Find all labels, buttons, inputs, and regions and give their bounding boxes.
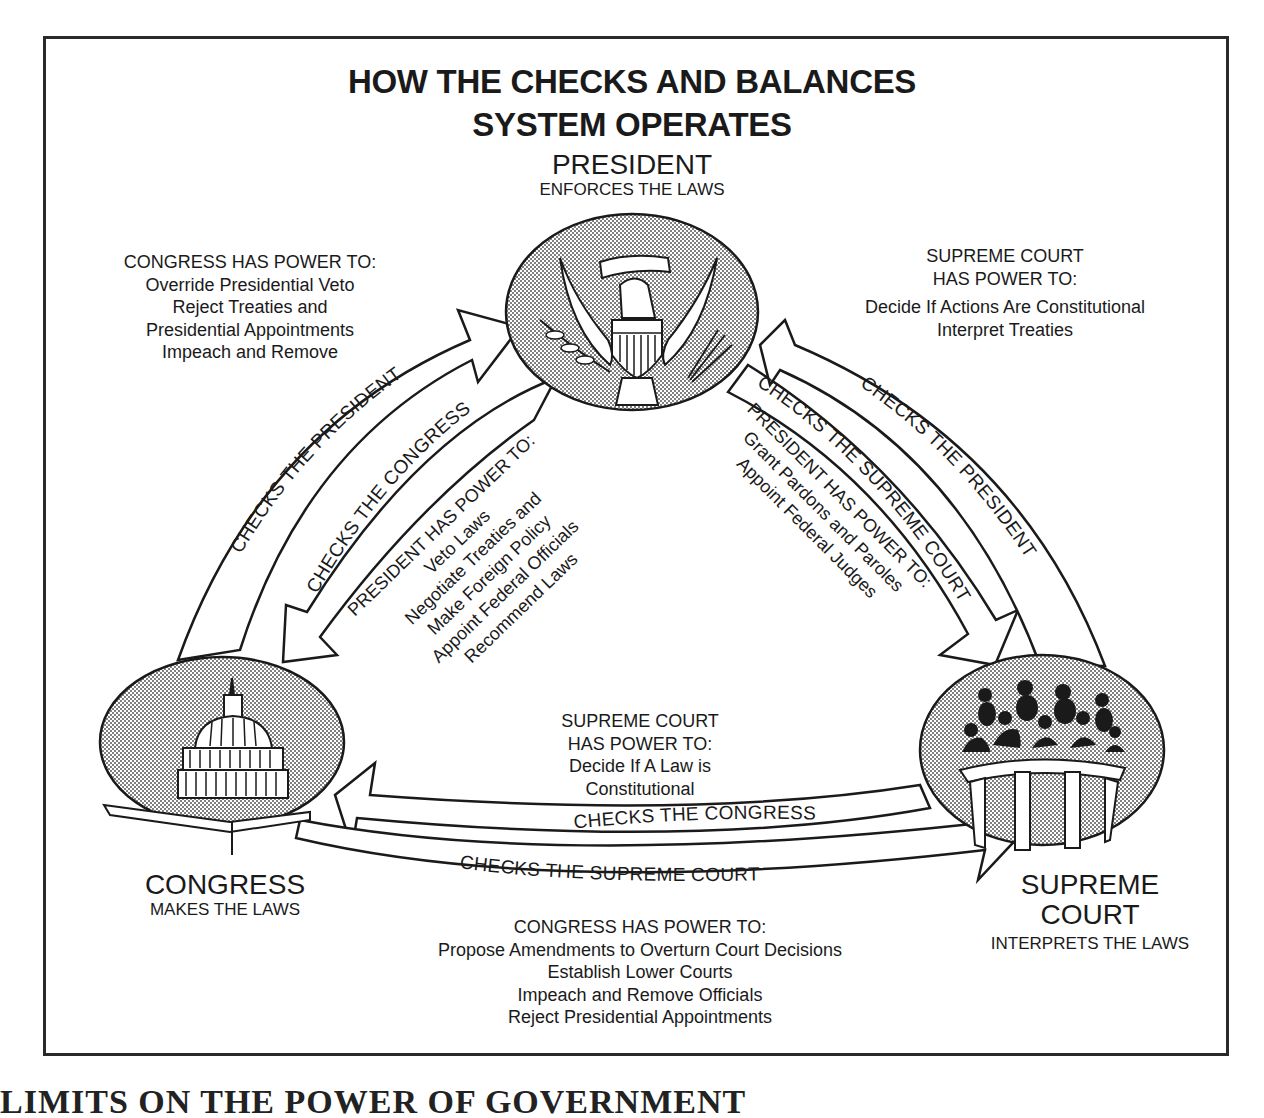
president-label: PRESIDENT ENFORCES THE LAWS <box>432 150 832 200</box>
supreme-court-label: SUPREME COURT INTERPRETS THE LAWS <box>950 870 1230 954</box>
next-section-heading-cut: LIMITS ON THE POWER OF GOVERNMENT <box>0 1083 746 1118</box>
diagram-title: HOW THE CHECKS AND BALANCES SYSTEM OPERA… <box>0 60 1264 146</box>
congress-label: CONGRESS MAKES THE LAWS <box>100 870 350 920</box>
power-item: Decide If Actions Are Constitutional <box>830 296 1180 319</box>
supreme-court-justices-icon <box>920 655 1164 850</box>
power-item: Interpret Treaties <box>830 319 1180 342</box>
power-item: Constitutional <box>500 778 780 801</box>
supreme-court-role: INTERPRETS THE LAWS <box>950 934 1230 954</box>
power-item: Establish Lower Courts <box>380 961 900 984</box>
power-heading: HAS POWER TO: <box>830 268 1180 291</box>
supreme-court-name-line-2: COURT <box>950 900 1230 930</box>
power-item: Override Presidential Veto <box>90 274 410 297</box>
title-line-2: SYSTEM OPERATES <box>0 103 1264 146</box>
president-seal-icon <box>506 214 758 410</box>
power-item: Propose Amendments to Overturn Court Dec… <box>380 939 900 962</box>
power-heading: SUPREME COURT <box>500 710 780 733</box>
title-line-1: HOW THE CHECKS AND BALANCES <box>0 60 1264 103</box>
court-powers-over-congress: SUPREME COURT HAS POWER TO: Decide If A … <box>500 710 780 800</box>
congress-powers-over-president: CONGRESS HAS POWER TO: Override Presiden… <box>90 251 410 364</box>
power-heading: CONGRESS HAS POWER TO: <box>380 916 900 939</box>
president-role: ENFORCES THE LAWS <box>432 180 832 200</box>
supreme-court-name-line-1: SUPREME <box>950 870 1230 900</box>
congress-role: MAKES THE LAWS <box>100 900 350 920</box>
power-heading: CONGRESS HAS POWER TO: <box>90 251 410 274</box>
power-heading: HAS POWER TO: <box>500 733 780 756</box>
power-item: Presidential Appointments <box>90 319 410 342</box>
power-item: Impeach and Remove Officials <box>380 984 900 1007</box>
power-item: Reject Treaties and <box>90 296 410 319</box>
power-item: Decide If A Law is <box>500 755 780 778</box>
court-powers-over-president: SUPREME COURT HAS POWER TO: Decide If Ac… <box>830 245 1180 341</box>
power-item: Reject Presidential Appointments <box>380 1006 900 1029</box>
power-heading: SUPREME COURT <box>830 245 1180 268</box>
president-name: PRESIDENT <box>432 150 832 180</box>
congress-name: CONGRESS <box>100 870 350 900</box>
congress-powers-over-court: CONGRESS HAS POWER TO: Propose Amendment… <box>380 916 900 1029</box>
power-item: Impeach and Remove <box>90 341 410 364</box>
